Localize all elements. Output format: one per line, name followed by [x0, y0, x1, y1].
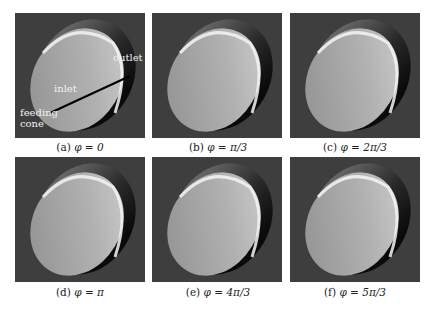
disc-image: [15, 157, 145, 282]
caption-d: (d) φ = π: [10, 286, 150, 298]
feeding-cone-label-1: feeding: [20, 107, 58, 118]
outlet-label: outlet: [113, 52, 143, 63]
caption-e: (e) φ = 4π/3: [148, 286, 288, 298]
disc-image: [152, 157, 282, 282]
disc-image: [290, 157, 420, 282]
panel-e: [152, 157, 282, 282]
disc-image: [290, 13, 420, 138]
panel-b: [152, 13, 282, 138]
panel-f: [290, 157, 420, 282]
caption-c: (c) φ = 2π/3: [285, 141, 425, 153]
caption-b: (b) φ = π/3: [148, 141, 288, 153]
panel-c: [290, 13, 420, 138]
disc-image: [152, 13, 282, 138]
caption-a: (a) φ = 0: [10, 141, 150, 153]
caption-f: (f) φ = 5π/3: [285, 286, 425, 298]
inlet-label: inlet: [54, 83, 77, 94]
feeding-cone-label-2: cone: [20, 118, 44, 129]
panel-d: [15, 157, 145, 282]
